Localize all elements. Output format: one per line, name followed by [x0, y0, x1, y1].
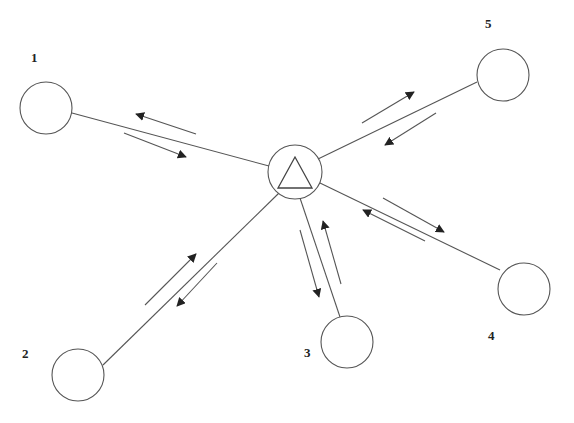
node-label-5: 5: [485, 16, 492, 31]
edge-hub-to-node-2: [103, 193, 279, 365]
node-label-3: 3: [304, 345, 311, 360]
flow-arrows: [124, 92, 444, 306]
node-label-4: 4: [488, 328, 495, 343]
star-network-diagram: 12345: [0, 0, 574, 423]
nodes: [20, 49, 550, 401]
hub-circle: [268, 145, 322, 199]
flow-arrow-to-node-4: [383, 198, 444, 232]
flow-arrow-to-hub-2: [145, 254, 196, 305]
flow-arrow-to-node-2: [177, 263, 217, 306]
flow-arrow-to-node-5: [362, 92, 414, 123]
flow-arrow-to-hub-5: [385, 113, 436, 145]
flow-arrow-to-node-3: [300, 230, 319, 297]
edges: [72, 82, 500, 365]
node-2: [52, 349, 104, 401]
node-label-2: 2: [22, 346, 29, 361]
node-labels: 12345: [22, 16, 495, 361]
flow-arrow-to-node-1: [136, 114, 196, 134]
flow-arrow-to-hub-4: [363, 210, 425, 241]
edge-hub-to-node-4: [320, 183, 500, 270]
flow-arrow-to-hub-1: [124, 133, 186, 157]
node-3: [321, 316, 373, 368]
hub-node: [268, 145, 322, 199]
edge-hub-to-node-1: [72, 113, 269, 166]
node-1: [20, 82, 72, 134]
node-5: [477, 49, 529, 101]
edge-hub-to-node-5: [318, 82, 477, 159]
node-label-1: 1: [31, 50, 38, 65]
node-4: [498, 263, 550, 315]
